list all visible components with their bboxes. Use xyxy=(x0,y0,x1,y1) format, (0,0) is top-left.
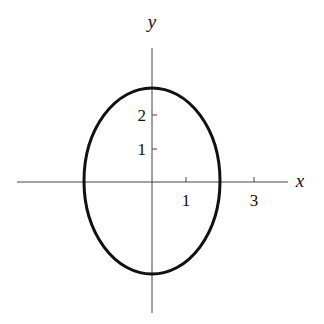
y-tick-label-2: 2 xyxy=(138,106,147,125)
x-tick-label-1: 1 xyxy=(182,191,191,210)
y-axis-label: y xyxy=(146,11,157,32)
ellipse-figure: 1 3 1 2 x y xyxy=(0,0,324,324)
x-axis-label: x xyxy=(295,170,305,191)
y-tick-label-1: 1 xyxy=(138,140,147,159)
x-tick-label-3: 3 xyxy=(250,191,259,210)
